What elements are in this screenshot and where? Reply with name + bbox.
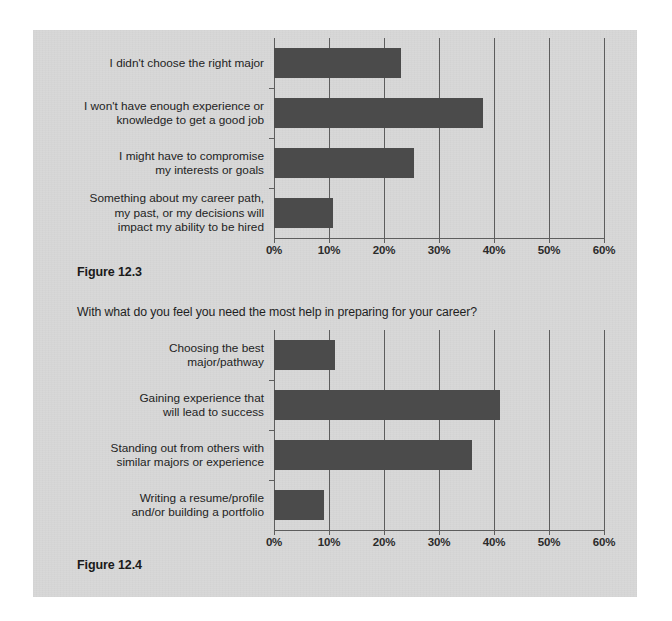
y-axis-tick — [269, 430, 274, 431]
y-axis-tick — [269, 380, 274, 381]
bar — [274, 490, 324, 520]
category-label: Choosing the best major/pathway — [33, 341, 264, 370]
bar — [274, 98, 483, 128]
plot-area-1: I didn't choose the right majorI won't h… — [274, 38, 604, 238]
bar — [274, 148, 414, 178]
chart-question-2: With what do you feel you need the most … — [77, 305, 477, 319]
bar — [274, 198, 333, 228]
x-axis-line — [274, 530, 604, 531]
x-axis-tick-label: 60% — [593, 244, 615, 256]
y-axis-tick — [269, 188, 274, 189]
x-axis-tick-label: 60% — [593, 536, 615, 548]
x-axis-tick-label: 0% — [266, 536, 282, 548]
category-label: Standing out from others with similar ma… — [33, 441, 264, 470]
gridline — [604, 330, 605, 530]
scanned-page-sheet: I didn't choose the right majorI won't h… — [33, 30, 637, 597]
gridline — [384, 330, 385, 530]
category-label: I didn't choose the right major — [33, 56, 264, 71]
x-axis-tick — [604, 238, 605, 243]
y-axis-tick — [269, 138, 274, 139]
x-axis-tick-label: 20% — [373, 244, 395, 256]
x-axis-tick-label: 50% — [538, 244, 560, 256]
x-axis-tick — [604, 530, 605, 535]
gridline — [494, 38, 495, 238]
figure-caption-12-3: Figure 12.3 — [77, 265, 142, 279]
bar — [274, 48, 401, 78]
gridline — [549, 330, 550, 530]
bar — [274, 440, 472, 470]
category-label: I might have to compromise my interests … — [33, 149, 264, 178]
plot-area-2: Choosing the best major/pathwayGaining e… — [274, 330, 604, 530]
gridline — [439, 38, 440, 238]
bar — [274, 340, 335, 370]
x-axis-tick-label: 50% — [538, 536, 560, 548]
figure-caption-12-4: Figure 12.4 — [77, 558, 142, 572]
gridline — [549, 38, 550, 238]
y-axis-tick — [269, 480, 274, 481]
chart-figure-12-4: Choosing the best major/pathwayGaining e… — [33, 330, 637, 545]
x-axis-tick-label: 10% — [318, 536, 340, 548]
chart-figure-12-3: I didn't choose the right majorI won't h… — [33, 38, 637, 253]
gridline — [439, 330, 440, 530]
category-label: Gaining experience that will lead to suc… — [33, 391, 264, 420]
y-axis-tick — [269, 88, 274, 89]
x-axis-tick-label: 10% — [318, 244, 340, 256]
category-label: Something about my career path, my past,… — [33, 191, 264, 235]
x-axis-tick-label: 40% — [483, 244, 505, 256]
x-axis-tick-label: 0% — [266, 244, 282, 256]
x-axis-tick-label: 30% — [428, 244, 450, 256]
gridline — [604, 38, 605, 238]
bar — [274, 390, 500, 420]
x-axis-tick-label: 40% — [483, 536, 505, 548]
category-label: Writing a resume/profile and/or building… — [33, 491, 264, 520]
gridline — [494, 330, 495, 530]
category-label: I won't have enough experience or knowle… — [33, 99, 264, 128]
x-axis-tick-label: 30% — [428, 536, 450, 548]
x-axis-line — [274, 238, 604, 239]
page-root: I didn't choose the right majorI won't h… — [0, 0, 672, 621]
x-axis-tick-label: 20% — [373, 536, 395, 548]
